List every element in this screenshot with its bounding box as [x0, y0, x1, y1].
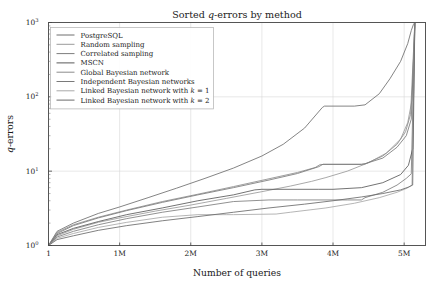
legend-label-6: Linked Bayesian network with k = 1: [81, 87, 210, 95]
legend-label-7: Linked Bayesian network with k = 2: [81, 97, 210, 105]
x-tick-label: 5M: [398, 249, 411, 258]
legend-label-1: Random sampling: [81, 41, 146, 49]
legend-label-3: MSCN: [81, 59, 104, 67]
legend-label-4: Global Bayesian network: [81, 69, 170, 77]
x-axis-label: Number of queries: [193, 267, 281, 278]
chart-legend: PostgreSQLRandom samplingCorrelated samp…: [51, 28, 214, 109]
x-tick-label: 1: [46, 249, 51, 258]
y-axis-label: q-errors: [4, 115, 15, 153]
x-tick-label: 4M: [327, 249, 340, 258]
x-tick-label: 1M: [113, 249, 126, 258]
legend-label-2: Correlated sampling: [81, 50, 154, 58]
legend-label-5: Independent Bayesian networks: [81, 78, 196, 86]
legend-label-0: PostgreSQL: [81, 32, 124, 40]
sorted-q-errors-line-chart: 11M2M3M4M5M100101102103 PostgreSQLRandom…: [0, 0, 443, 287]
chart-title: Sorted q-errors by method: [172, 9, 302, 20]
x-tick-label: 3M: [256, 249, 269, 258]
chart-figure: 11M2M3M4M5M100101102103 PostgreSQLRandom…: [0, 0, 443, 287]
x-tick-label: 2M: [185, 249, 198, 258]
